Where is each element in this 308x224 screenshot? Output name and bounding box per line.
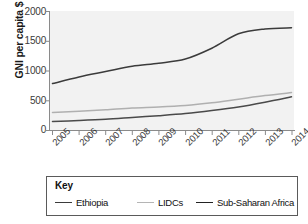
legend-swatch-lidcs [137,202,154,203]
legend-entries: Ethiopia LIDCs Sub-Saharan Africa [53,197,297,215]
legend-item-lidcs: LIDCs [137,197,183,208]
legend-swatch-sub-saharan-africa [196,202,213,203]
legend-label-sub-saharan-africa: Sub-Saharan Africa [217,197,294,208]
legend-box: Key Ethiopia LIDCs Sub-Saharan Africa [46,176,298,216]
legend-title: Key [55,180,73,191]
legend-label-ethiopia: Ethiopia [76,197,108,208]
legend-item-ethiopia: Ethiopia [55,197,108,208]
y-axis-ticks [45,12,49,131]
x-axis-tick-labels: 2005200620072008200920102011201220132014 [50,134,300,170]
legend-label-lidcs: LIDCs [158,197,183,208]
legend-swatch-ethiopia [55,202,72,203]
gni-per-capita-line-chart: GNI per capita $ 2000 1500 1000 500 0 [0,0,308,224]
legend-item-sub-saharan-africa: Sub-Saharan Africa [196,197,294,208]
